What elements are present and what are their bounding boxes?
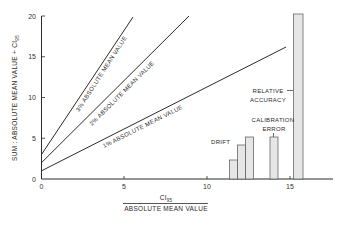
bar-drift-1 bbox=[230, 160, 238, 179]
line-3-label: 3% ABSOLUTE MEAN VALUE bbox=[75, 35, 128, 113]
y-tick-label: 15 bbox=[28, 53, 36, 60]
line-2-label: 2% ABSOLUTE MEAN VALUE bbox=[88, 60, 155, 127]
bar-drift-2 bbox=[238, 145, 246, 179]
bar-relative-accuracy bbox=[294, 14, 304, 179]
y-tick-label: 5 bbox=[32, 135, 36, 142]
y-tick-label: 20 bbox=[28, 13, 36, 20]
x-tick-label: 5 bbox=[122, 183, 126, 190]
svg-text:ABSOLUTE MEAN VALUE: ABSOLUTE MEAN VALUE bbox=[124, 205, 208, 212]
y-tick-label: 0 bbox=[32, 176, 36, 183]
y-tick-labels: 20 15 10 5 0 bbox=[28, 13, 36, 183]
calibration-annotation-line2: ERROR bbox=[262, 126, 286, 132]
y-tick-label: 10 bbox=[28, 94, 36, 101]
svg-text:SUM : ABSOLUTE MEAN VALUE + CI: SUM : ABSOLUTE MEAN VALUE + CI95 bbox=[11, 35, 20, 161]
x-tick-labels: 0 5 10 15 bbox=[40, 183, 294, 190]
relative-accuracy-annotation-line1: RELATIVE bbox=[253, 88, 284, 94]
x-tick-label: 10 bbox=[203, 183, 211, 190]
x-tick-label: 0 bbox=[40, 183, 44, 190]
x-tick-label: 15 bbox=[286, 183, 294, 190]
chart: 20 15 10 5 0 0 5 10 15 SUM : ABSOLUTE ME… bbox=[0, 0, 337, 225]
svg-text:CI95: CI95 bbox=[160, 194, 173, 203]
relative-accuracy-annotation-line2: ACCURACY bbox=[250, 97, 286, 103]
drift-annotation: DRIFT bbox=[211, 139, 230, 145]
x-axis-label: CI95 ABSOLUTE MEAN VALUE bbox=[123, 194, 208, 212]
bar-calibration-error bbox=[270, 137, 278, 179]
calibration-annotation-line1: CALIBRATION bbox=[252, 117, 295, 123]
bar-drift-3 bbox=[246, 137, 254, 179]
line-1-label: 1% ABSOLUTE MEAN VALUE bbox=[102, 104, 184, 149]
y-axis-label: SUM : ABSOLUTE MEAN VALUE + CI95 bbox=[11, 35, 20, 161]
